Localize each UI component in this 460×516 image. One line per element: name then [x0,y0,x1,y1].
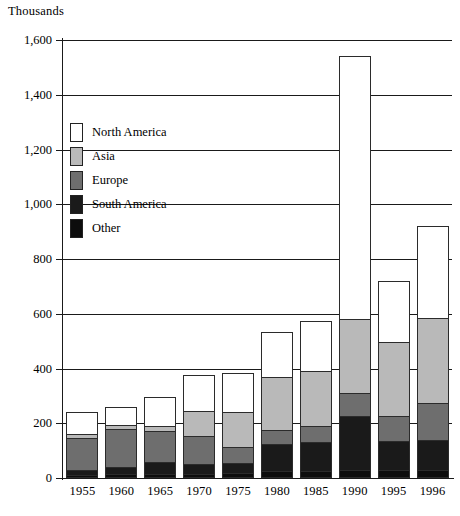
bar-segment-europe[interactable] [66,438,98,469]
legend-label: Other [92,221,120,236]
bar-segment-europe[interactable] [417,403,449,440]
legend-swatch-icon [70,219,83,238]
bar-1975[interactable] [222,373,254,478]
bar-segment-south-america[interactable] [222,463,254,473]
x-tick-label: 1960 [102,484,141,499]
legend-swatch-icon [70,195,83,214]
gridline [63,259,452,260]
bar-segment-europe[interactable] [261,430,293,444]
bar-segment-north-america[interactable] [261,332,293,377]
bar-segment-north-america[interactable] [66,412,98,434]
bar-segment-north-america[interactable] [378,281,410,343]
bar-1980[interactable] [261,332,293,478]
bar-segment-europe[interactable] [144,431,176,461]
bar-1996[interactable] [417,226,449,478]
y-tick-label: 400 [0,361,52,376]
bar-segment-asia[interactable] [183,411,215,436]
legend-item-south-america[interactable]: South America [70,192,167,216]
bar-1985[interactable] [300,321,332,478]
bar-segment-asia[interactable] [222,412,254,446]
legend: North AmericaAsiaEuropeSouth AmericaOthe… [70,120,167,240]
bar-1995[interactable] [378,281,410,478]
bar-segment-asia[interactable] [339,319,371,393]
bar-segment-other[interactable] [261,471,293,478]
x-tick-label: 1990 [335,484,374,499]
bar-segment-north-america[interactable] [183,375,215,411]
bar-segment-south-america[interactable] [378,441,410,470]
bar-segment-other[interactable] [300,471,332,478]
bar-1965[interactable] [144,397,176,478]
bar-1960[interactable] [105,407,137,478]
bar-segment-north-america[interactable] [339,56,371,319]
bar-segment-other[interactable] [417,470,449,478]
bar-segment-south-america[interactable] [66,470,98,475]
x-tick-label: 1985 [296,484,335,499]
y-tick-label: 0 [0,471,52,486]
bar-segment-other[interactable] [378,470,410,478]
legend-swatch-icon [70,171,83,190]
bar-segment-asia[interactable] [105,425,137,429]
legend-item-other[interactable]: Other [70,216,167,240]
y-tick-label: 1,200 [0,142,52,157]
legend-swatch-icon [70,147,83,166]
bar-segment-south-america[interactable] [105,467,137,474]
x-tick-label: 1975 [219,484,258,499]
bar-segment-south-america[interactable] [144,462,176,474]
bar-segment-asia[interactable] [300,371,332,426]
x-tick-label: 1995 [374,484,413,499]
y-tick-label: 800 [0,252,52,267]
bar-segment-asia[interactable] [66,434,98,438]
bar-segment-north-america[interactable] [417,226,449,318]
gridline [63,40,452,41]
y-tick-label: 600 [0,306,52,321]
bar-segment-europe[interactable] [222,447,254,463]
y-tick-label: 1,000 [0,197,52,212]
gridline [63,95,452,96]
bar-segment-north-america[interactable] [300,321,332,372]
legend-item-europe[interactable]: Europe [70,168,167,192]
x-tick-label: 1955 [63,484,102,499]
unit-label: Thousands [8,4,64,19]
bar-1955[interactable] [66,412,98,478]
bar-segment-asia[interactable] [417,318,449,403]
y-tick-label: 200 [0,416,52,431]
legend-item-asia[interactable]: Asia [70,144,167,168]
bar-segment-north-america[interactable] [144,397,176,426]
y-tick-label: 1,600 [0,33,52,48]
x-axis-line [62,478,454,479]
legend-label: North America [92,125,167,140]
bar-segment-europe[interactable] [339,393,371,416]
stacked-bar-chart: Thousands 02004006008001,0001,2001,4001,… [0,0,460,516]
bar-segment-europe[interactable] [183,436,215,465]
x-tick-label: 1965 [141,484,180,499]
bar-1990[interactable] [339,56,371,478]
x-tick-label: 1996 [413,484,452,499]
legend-label: Asia [92,149,115,164]
bar-segment-south-america[interactable] [417,440,449,470]
bar-segment-other[interactable] [339,470,371,478]
bar-segment-asia[interactable] [144,426,176,431]
legend-item-north-america[interactable]: North America [70,120,167,144]
bar-segment-north-america[interactable] [222,373,254,413]
x-tick-label: 1980 [258,484,297,499]
legend-label: South America [92,197,167,212]
bar-segment-europe[interactable] [300,426,332,442]
bar-segment-south-america[interactable] [300,442,332,471]
bar-segment-europe[interactable] [105,429,137,467]
bar-segment-europe[interactable] [378,416,410,441]
bar-segment-south-america[interactable] [339,416,371,469]
x-tick-label: 1970 [180,484,219,499]
legend-swatch-icon [70,123,83,142]
y-tick-label: 1,400 [0,87,52,102]
bar-segment-asia[interactable] [261,377,293,430]
bar-segment-asia[interactable] [378,342,410,416]
bar-segment-north-america[interactable] [105,407,137,425]
y-axis-line [62,38,63,480]
bar-1970[interactable] [183,375,215,478]
bar-segment-south-america[interactable] [261,444,293,471]
legend-label: Europe [92,173,128,188]
bar-segment-south-america[interactable] [183,464,215,474]
